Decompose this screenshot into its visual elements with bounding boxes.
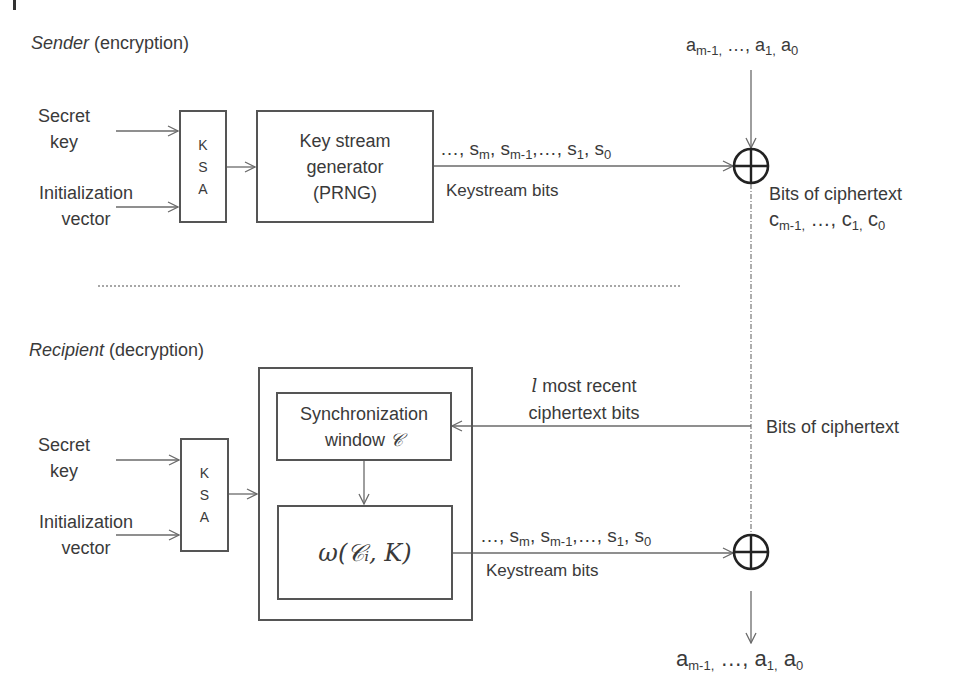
omega-function-label: ω(𝒞ᵢ, K) [279, 541, 451, 565]
self-synchronizing-stream-cipher-diagram: Sender (encryption) Secret key Initializ… [0, 0, 953, 695]
sender-keystream-label: Keystream bits [446, 180, 558, 202]
sender-keystream-sequence: …, sm, sm-1,…, s1, s0 [440, 138, 611, 160]
recipient-xor-icon [734, 535, 768, 569]
recipient-iv-label: Initialization vector [24, 509, 148, 561]
recipient-plaintext-out-label: am-1, …, a1, a0 [676, 648, 803, 670]
sender-plaintext-label: am-1, …, a1, a0 [686, 34, 798, 56]
sender-title-rest: (encryption) [89, 33, 189, 53]
recipient-title-rest: (decryption) [104, 340, 204, 360]
recipient-keystream-label: Keystream bits [486, 560, 598, 582]
sender-keystream-generator-box: Key stream generator (PRNG) [256, 110, 434, 223]
recipient-ksa-box: K S A [180, 438, 229, 552]
recipient-keystream-sequence: …, sm, sm-1,…, s1, s0 [480, 525, 651, 547]
recipient-secret-key-label: Secret key [24, 432, 104, 484]
sender-xor-icon [734, 149, 768, 183]
sender-section-title: Sender (encryption) [31, 32, 189, 54]
sender-iv-label: Initialization vector [24, 180, 148, 232]
sender-secret-key-label: Secret key [24, 103, 104, 155]
sender-ciphertext-label: Bits of ciphertext cm-1, …, c1, c0 [769, 182, 902, 232]
recipient-title-italic: Recipient [29, 340, 104, 360]
omega-function-box: ω(𝒞ᵢ, K) [277, 505, 453, 600]
feedback-label: l most recent ciphertext bits [509, 372, 659, 427]
recipient-section-title: Recipient (decryption) [29, 339, 204, 361]
sender-ksa-box: K S A [179, 110, 227, 223]
sender-title-italic: Sender [31, 33, 89, 53]
synchronization-window-box: Synchronization window 𝒞 [276, 392, 452, 461]
recipient-ciphertext-in-label: Bits of ciphertext [766, 416, 899, 438]
